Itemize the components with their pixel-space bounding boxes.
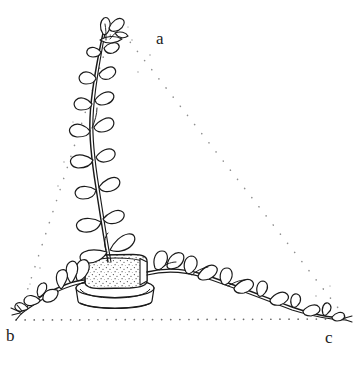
vertex-label-c: c xyxy=(325,329,333,346)
vertex-label-a: a xyxy=(156,30,164,47)
vertex-label-b: b xyxy=(6,327,15,344)
botanical-figure xyxy=(0,0,354,365)
figure-canvas xyxy=(0,0,354,365)
